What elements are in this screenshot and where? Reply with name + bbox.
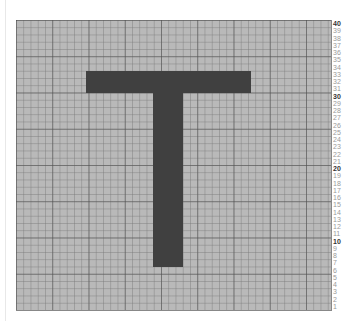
t-stem bbox=[153, 93, 183, 267]
row-label: 7 bbox=[333, 259, 337, 266]
row-label: 9 bbox=[333, 245, 337, 252]
row-label: 30 bbox=[333, 93, 341, 100]
row-label: 8 bbox=[333, 252, 337, 259]
row-label: 1 bbox=[333, 303, 337, 310]
row-label: 36 bbox=[333, 49, 341, 56]
row-label: 16 bbox=[333, 194, 341, 201]
row-label: 26 bbox=[333, 122, 341, 129]
row-label: 14 bbox=[333, 209, 341, 216]
row-label: 38 bbox=[333, 35, 341, 42]
row-number-labels: 4039383736353433323130292827262524232221… bbox=[333, 20, 354, 310]
row-label: 27 bbox=[333, 114, 341, 121]
left-border-line bbox=[5, 0, 6, 321]
row-label: 23 bbox=[333, 143, 341, 150]
pixel-grid[interactable] bbox=[16, 20, 332, 311]
row-label: 3 bbox=[333, 288, 337, 295]
row-label: 32 bbox=[333, 78, 341, 85]
row-label: 11 bbox=[333, 230, 340, 237]
row-label: 40 bbox=[333, 20, 341, 27]
row-label: 15 bbox=[333, 201, 341, 208]
row-label: 12 bbox=[333, 223, 341, 230]
row-label: 2 bbox=[333, 296, 337, 303]
row-label: 33 bbox=[333, 71, 341, 78]
row-label: 24 bbox=[333, 136, 341, 143]
row-label: 4 bbox=[333, 281, 337, 288]
row-label: 28 bbox=[333, 107, 341, 114]
row-label: 6 bbox=[333, 267, 337, 274]
row-label: 37 bbox=[333, 42, 341, 49]
row-label: 5 bbox=[333, 274, 337, 281]
t-crossbar bbox=[86, 71, 251, 93]
row-label: 31 bbox=[333, 85, 341, 92]
row-label: 29 bbox=[333, 100, 341, 107]
row-label: 18 bbox=[333, 180, 341, 187]
row-label: 17 bbox=[333, 187, 341, 194]
row-label: 39 bbox=[333, 27, 341, 34]
row-label: 10 bbox=[333, 238, 341, 245]
row-label: 35 bbox=[333, 56, 341, 63]
row-label: 22 bbox=[333, 151, 341, 158]
row-label: 21 bbox=[333, 158, 341, 165]
row-label: 25 bbox=[333, 129, 341, 136]
row-label: 13 bbox=[333, 216, 341, 223]
row-label: 20 bbox=[333, 165, 341, 172]
row-label: 19 bbox=[333, 172, 341, 179]
row-label: 34 bbox=[333, 64, 341, 71]
